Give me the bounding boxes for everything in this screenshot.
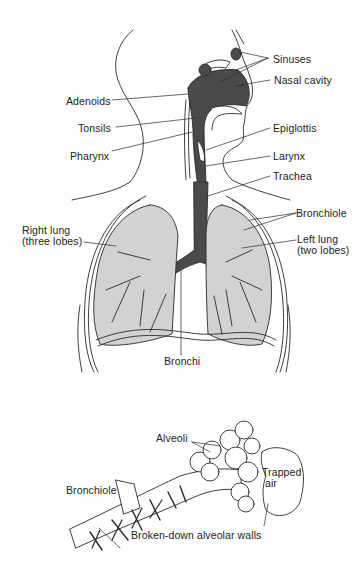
label-pharynx: Pharynx bbox=[70, 150, 109, 162]
label-broken-down-walls: Broken-down alveolar walls bbox=[131, 529, 261, 541]
label-adenoids: Adenoids bbox=[66, 95, 111, 107]
label-tonsils: Tonsils bbox=[78, 122, 111, 134]
label-larynx: Larynx bbox=[273, 150, 305, 162]
left-lung-shape bbox=[206, 205, 272, 345]
label-bronchiole-lower: Bronchiole bbox=[66, 484, 117, 496]
label-left-lung: Left lung (two lobes) bbox=[297, 234, 349, 256]
label-nasal-cavity: Nasal cavity bbox=[274, 74, 332, 86]
label-epiglottis: Epiglottis bbox=[273, 122, 317, 134]
label-alveoli: Alveoli bbox=[156, 432, 188, 444]
label-sinuses: Sinuses bbox=[273, 53, 311, 65]
label-right-lung: Right lung (three lobes) bbox=[22, 225, 82, 247]
label-left-lung-line2: (two lobes) bbox=[297, 245, 349, 256]
respiratory-diagram: Sinuses Nasal cavity Adenoids Tonsils Ph… bbox=[0, 0, 363, 563]
label-trapped-air-line2: air bbox=[262, 478, 301, 489]
label-trapped-air: Trapped air bbox=[262, 467, 301, 489]
label-right-lung-line2: (three lobes) bbox=[22, 236, 82, 247]
right-lung-shape bbox=[94, 205, 178, 345]
label-bronchi: Bronchi bbox=[164, 355, 200, 367]
label-bronchiole-upper: Bronchiole bbox=[296, 207, 347, 219]
label-trachea: Trachea bbox=[273, 170, 312, 182]
